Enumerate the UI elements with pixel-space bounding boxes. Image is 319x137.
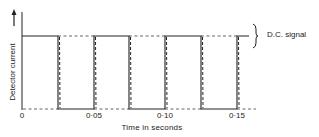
y-axis-label: Detector current	[9, 43, 17, 100]
y-axis-arrow-icon	[12, 9, 17, 26]
dc-signal-label: D.C. signal	[267, 31, 306, 39]
x-axis-label: Time in seconds	[122, 124, 183, 132]
dashed-edges	[60, 37, 240, 108]
x-tick-010: 0·10	[157, 112, 173, 120]
brace-icon	[253, 24, 258, 48]
x-tick-005: 0·05	[86, 112, 102, 120]
square-wave-trace	[22, 36, 249, 109]
x-tick-015: 0·15	[229, 112, 245, 120]
x-tick-0: 0	[20, 112, 24, 120]
